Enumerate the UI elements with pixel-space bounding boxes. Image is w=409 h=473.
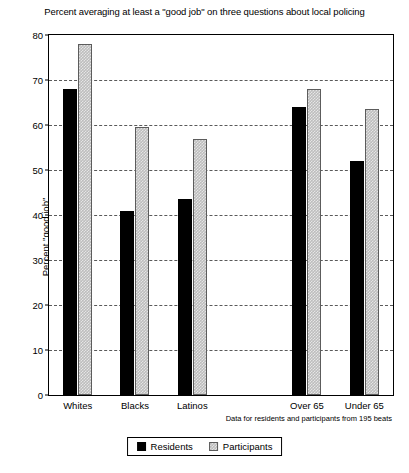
legend-label-residents: Residents bbox=[151, 441, 193, 452]
bar-group: Latinos bbox=[164, 35, 221, 395]
legend-swatch-residents-icon bbox=[137, 442, 146, 451]
x-axis-label-blacks: Blacks bbox=[121, 400, 149, 411]
bar-group: Under 65 bbox=[336, 35, 393, 395]
bar-under-65-participants bbox=[365, 109, 379, 395]
y-tick-label: 60 bbox=[32, 120, 43, 131]
bar-group: Blacks bbox=[106, 35, 163, 395]
legend-label-participants: Participants bbox=[223, 441, 273, 452]
x-axis-label-latinos: Latinos bbox=[177, 400, 208, 411]
bar-blacks-participants bbox=[135, 127, 149, 395]
bar-latinos-participants bbox=[193, 139, 207, 396]
bar-over-65-participants bbox=[307, 89, 321, 395]
x-axis-label-whites: Whites bbox=[63, 400, 92, 411]
chart-title: Percent averaging at least a "good job" … bbox=[0, 6, 409, 17]
y-tick-label: 70 bbox=[32, 75, 43, 86]
chart-legend: Residents Participants bbox=[127, 437, 283, 456]
x-axis-label-under-65: Under 65 bbox=[345, 400, 384, 411]
bar-group: Whites bbox=[49, 35, 106, 395]
bar-under-65-residents bbox=[350, 161, 364, 395]
y-tick-label: 40 bbox=[32, 210, 43, 221]
y-tick-label: 10 bbox=[32, 345, 43, 356]
y-tick-label: 50 bbox=[32, 165, 43, 176]
plot-area: 01020304050607080WhitesBlacksLatinosOver… bbox=[48, 34, 394, 396]
bar-latinos-residents bbox=[178, 199, 192, 395]
bar-group: Over 65 bbox=[278, 35, 335, 395]
legend-swatch-participants-icon bbox=[209, 442, 218, 451]
y-tick-label: 30 bbox=[32, 255, 43, 266]
bar-blacks-residents bbox=[120, 211, 134, 396]
y-tick-label: 80 bbox=[32, 30, 43, 41]
bar-whites-residents bbox=[63, 89, 77, 395]
y-tick-label: 20 bbox=[32, 300, 43, 311]
bar-over-65-residents bbox=[292, 107, 306, 395]
y-tick-label: 0 bbox=[38, 390, 43, 401]
legend-entry-participants: Participants bbox=[209, 441, 273, 452]
legend-entry-residents: Residents bbox=[137, 441, 193, 452]
bar-chart: Percent averaging at least a "good job" … bbox=[0, 0, 409, 473]
bar-whites-participants bbox=[78, 44, 92, 395]
chart-annotation: Data for residents and participants from… bbox=[226, 414, 392, 423]
x-axis-label-over-65: Over 65 bbox=[290, 400, 324, 411]
